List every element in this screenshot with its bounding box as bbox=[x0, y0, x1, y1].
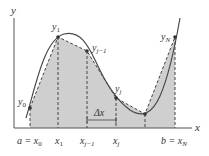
tick-label-xj: xj bbox=[112, 135, 119, 148]
label-y1: y1 bbox=[51, 21, 60, 34]
trapezoid-diagram: y x y0 y1 yj−1 yj yN Δx a = x0 x1 xj−1 x… bbox=[0, 0, 209, 156]
delta-x-label: Δx bbox=[93, 107, 105, 118]
label-yj-minus-1: yj−1 bbox=[91, 42, 107, 55]
x-axis-label: x bbox=[194, 121, 200, 133]
y-axis-label: y bbox=[10, 4, 16, 16]
label-y0: y0 bbox=[17, 96, 26, 109]
tick-label-x1: x1 bbox=[54, 135, 63, 148]
tick-label-b-xN: b = xN bbox=[161, 135, 187, 148]
tick-label-a-x0: a = x0 bbox=[17, 135, 42, 148]
tick-label-xj-minus-1: xj−1 bbox=[79, 135, 95, 148]
label-yj: yj bbox=[114, 83, 121, 96]
label-yN: yN bbox=[160, 31, 170, 44]
